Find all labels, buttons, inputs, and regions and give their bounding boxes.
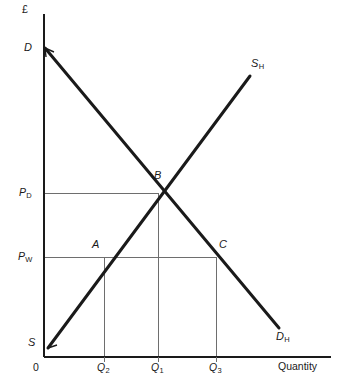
quantity-label-q3-main: Q <box>209 361 217 373</box>
quantity-label-q2: Q2 <box>97 362 109 373</box>
price-label-pd: PD <box>19 187 31 198</box>
price-label-pd-sub: D <box>26 191 31 200</box>
price-label-pw-sub: W <box>25 255 32 264</box>
x-axis-label: Quantity <box>278 361 317 372</box>
demand-curve-label-main: D <box>276 330 284 342</box>
curve-origin-markers <box>45 48 57 348</box>
y-axis-label: £ <box>22 4 28 15</box>
point-label-b: B <box>154 170 161 181</box>
supply-curve-label: SH <box>251 58 264 69</box>
supply-curve-label-main: S <box>251 57 258 69</box>
supply-curve-start-label: S <box>28 337 35 348</box>
quantity-label-q1-sub: 1 <box>159 366 163 375</box>
price-label-pw: PW <box>18 251 32 262</box>
quantity-label-q3: Q3 <box>209 362 221 373</box>
origin-label: 0 <box>33 362 39 373</box>
demand-curve-start-label: D <box>24 42 32 53</box>
demand-curve-label-sub: H <box>284 335 289 344</box>
supply-curve <box>48 76 250 348</box>
price-label-pw-main: P <box>18 250 25 262</box>
price-label-pd-main: P <box>19 186 26 198</box>
supply-curve-label-sub: H <box>259 62 264 71</box>
point-label-a: A <box>92 239 99 250</box>
quantity-label-q2-main: Q <box>97 361 105 373</box>
axes <box>44 14 331 357</box>
quantity-label-q1-main: Q <box>151 361 159 373</box>
quantity-label-q3-sub: 3 <box>217 366 221 375</box>
point-label-c: C <box>219 239 227 250</box>
quantity-label-q1: Q1 <box>151 362 163 373</box>
demand-curve <box>45 48 279 328</box>
demand-curve-label: DH <box>276 331 289 342</box>
supply-demand-chart: £ Quantity 0 D DH S SH A B C PD PW Q2 Q1… <box>0 0 340 391</box>
quantity-label-q2-sub: 2 <box>105 366 109 375</box>
guide-lines <box>44 193 216 357</box>
